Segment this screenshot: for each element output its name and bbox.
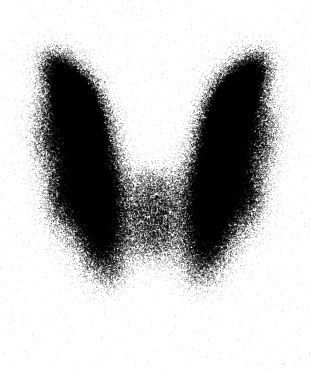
scintigraphy-image-viewport [0,0,311,370]
thyroid-scintigraphy-scan [0,0,311,370]
